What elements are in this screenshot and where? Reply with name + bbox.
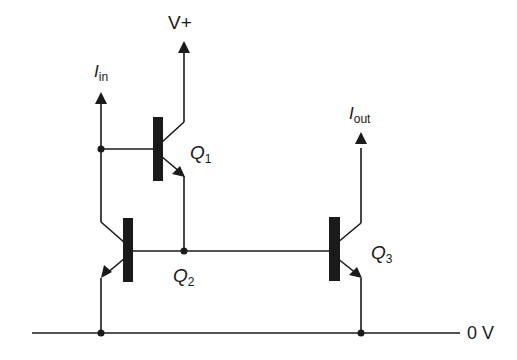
q1-base-bar (153, 117, 163, 181)
output-current-arrow-icon (355, 132, 367, 144)
q3-collector-diag (337, 223, 361, 243)
supply-arrow-icon (178, 41, 190, 53)
input-current-arrow-icon (95, 92, 107, 104)
q3-base-bar (329, 217, 340, 281)
junction-base-bus (181, 248, 188, 255)
q3-label: Q3 (371, 243, 392, 265)
q1-collector-diag (161, 122, 184, 143)
q2-base-bar (123, 218, 133, 282)
q2-collector-wire (101, 222, 125, 243)
input-current-label: Iin (94, 63, 108, 83)
q2-label: Q2 (173, 266, 194, 288)
q1-label: Q1 (190, 143, 211, 165)
output-current-label: Iout (349, 105, 370, 125)
supply-label: V+ (168, 13, 192, 32)
junction-q1-base (98, 146, 105, 153)
circuit-schematic (0, 0, 517, 360)
junction-q2-ground (98, 330, 105, 337)
ground-label: 0 V (467, 324, 494, 342)
junction-q3-ground (358, 330, 365, 337)
q2-emitter-arrow-icon (101, 265, 112, 278)
